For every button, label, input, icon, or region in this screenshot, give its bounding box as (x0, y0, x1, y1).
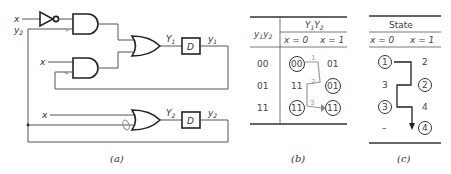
input-label-x-bottom: x (41, 110, 48, 120)
table-b-cell: 01 (327, 59, 338, 69)
table-c-cell: 4 (422, 102, 428, 112)
table-c-col-x1: x = 1 (409, 35, 434, 45)
and-gate-2-icon (73, 58, 98, 78)
arrowhead-icon (409, 123, 415, 130)
table-b-col-header: Y1Y2 (305, 20, 324, 31)
table-b-state-01: 01 (257, 81, 268, 91)
table-c-cell: 1 (382, 57, 388, 67)
table-c-col-x0: x = 0 (369, 35, 395, 45)
caption-b: (b) (291, 153, 305, 164)
table-b-cell: 11 (291, 81, 302, 91)
table-b-cell: 01 (327, 81, 338, 91)
table-b-cell: 00 (291, 59, 303, 69)
circuit-diagram-a: x y2 x Y1 D y1 (13, 12, 228, 164)
table-b-col-x0: x = 0 (283, 35, 309, 45)
arrowhead-icon (321, 104, 326, 112)
transition-table-b: y1y2 Y1Y2 x = 0 x = 1 00 01 11 00 01 11 … (250, 17, 347, 164)
state-table-c: State x = 0 x = 1 1 2 3 2 3 4 – 4 (c) (369, 16, 441, 164)
and-gate-1-icon (73, 14, 98, 34)
table-b-cell: 11 (291, 103, 302, 113)
table-b-state-11: 11 (257, 103, 268, 113)
wire-and2-to-or1 (98, 52, 136, 68)
table-c-cell: – (382, 123, 387, 133)
table-c-cell: 3 (382, 80, 388, 90)
figure-canvas: x y2 x Y1 D y1 (0, 0, 451, 174)
or-gate-2-icon (132, 110, 160, 130)
annotation-1: 1 (311, 54, 315, 62)
transition-path-icon (394, 62, 412, 124)
input-label-x-top: x (13, 14, 20, 24)
d1-label: D (187, 42, 194, 52)
input-label-x-mid: x (39, 57, 46, 67)
table-b-state-00: 00 (257, 59, 269, 69)
wire-and1-to-or1 (98, 24, 136, 40)
annotation-3: 3 (310, 99, 314, 107)
table-c-cell: 3 (382, 102, 388, 112)
label-Y1: Y1 (166, 34, 175, 45)
label-Y2: Y2 (166, 108, 176, 119)
table-c-cell: 2 (422, 57, 428, 67)
label-y2: y2 (207, 108, 217, 119)
table-b-cell: 11 (327, 103, 338, 113)
d2-label: D (187, 116, 194, 126)
not-gate-icon (40, 12, 59, 26)
caption-c: (c) (397, 153, 411, 164)
label-y1: y1 (207, 34, 217, 45)
annotation-2: 2 (311, 78, 315, 86)
table-b-row-header: y1y2 (253, 29, 272, 40)
input-label-y2: y2 (13, 25, 23, 36)
table-c-cell: 2 (422, 80, 428, 90)
table-c-header: State (389, 20, 413, 30)
table-b-col-x1: x = 1 (319, 35, 344, 45)
caption-a: (a) (110, 153, 124, 164)
table-c-cell: 4 (422, 123, 428, 133)
or-gate-1-icon (132, 36, 160, 56)
